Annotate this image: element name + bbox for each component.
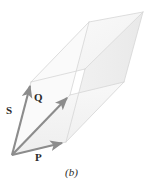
panel-caption-label: (b) bbox=[65, 167, 78, 178]
vector-label-s: S bbox=[6, 105, 12, 116]
vector-label-q: Q bbox=[34, 92, 43, 103]
figure-panel-b: S Q P (b) bbox=[0, 0, 149, 187]
parallelepiped-diagram bbox=[0, 0, 149, 187]
vector-label-p: P bbox=[35, 152, 42, 163]
